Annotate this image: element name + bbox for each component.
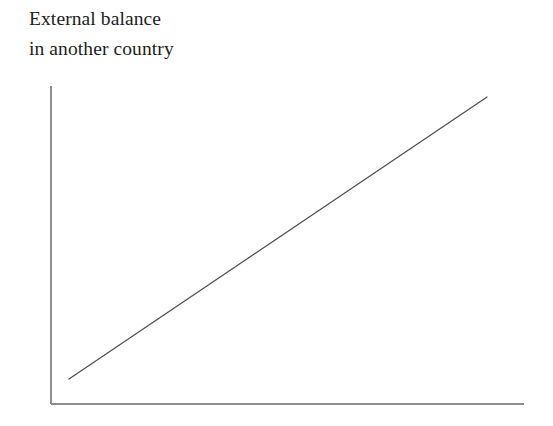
chart-svg <box>0 0 553 426</box>
external-balance-line <box>69 97 487 379</box>
figure-canvas: External balance in another country <box>0 0 553 426</box>
line-chart <box>0 0 553 426</box>
